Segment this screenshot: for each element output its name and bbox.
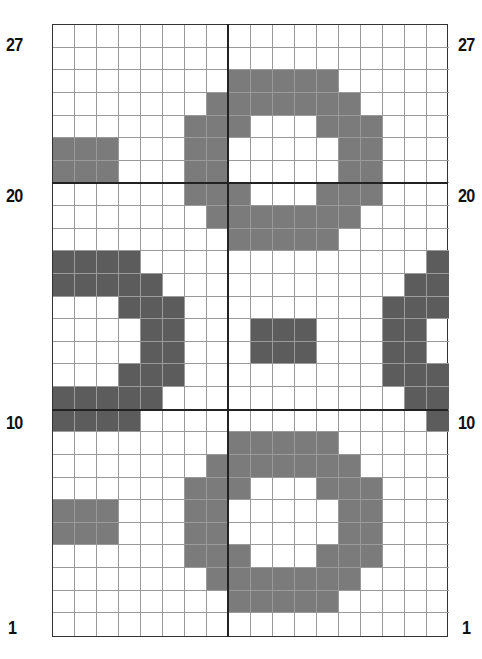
grid-cell [185,25,207,48]
grid-cell [163,138,185,161]
grid-cell [317,297,339,320]
grid-cell [75,568,97,591]
grid-cell [361,613,383,636]
grid-cell [207,455,229,478]
grid-cell [317,591,339,614]
grid-cell [119,183,141,206]
grid-cell [163,342,185,365]
grid-cell [185,500,207,523]
grid-cell [295,251,317,274]
grid-cell [141,161,163,184]
grid-cell [207,161,229,184]
grid-cell [405,183,427,206]
grid-cell [339,523,361,546]
grid-cell [163,251,185,274]
grid-cell [405,432,427,455]
grid-cell [405,591,427,614]
grid-cell [317,70,339,93]
grid-cell [119,229,141,252]
grid-cell [295,161,317,184]
divider-row-10 [52,409,448,411]
grid-cell [185,70,207,93]
grid-cell [427,70,449,93]
grid-cell [119,25,141,48]
grid-cell [273,161,295,184]
grid-cell [405,93,427,116]
grid-cell [405,206,427,229]
grid-cell [141,116,163,139]
grid-cell [141,410,163,433]
grid-cell [405,545,427,568]
grid-cell [383,545,405,568]
grid-cell [229,229,251,252]
grid-cell [163,319,185,342]
grid-cell [273,70,295,93]
grid-cell [251,478,273,501]
grid-cell [119,48,141,71]
grid-cell [427,387,449,410]
grid-cell [339,206,361,229]
grid-cell [185,410,207,433]
grid-cell [383,319,405,342]
grid-cell [405,319,427,342]
grid-cell [163,545,185,568]
grid-cell [295,274,317,297]
grid-cell [141,432,163,455]
grid-cell [339,568,361,591]
grid-cell [75,319,97,342]
grid-cell [75,455,97,478]
grid-cell [383,478,405,501]
grid-cell [229,523,251,546]
grid-cell [163,410,185,433]
grid-cell [119,364,141,387]
grid-cell [229,432,251,455]
grid-cell [207,206,229,229]
grid-cell [97,455,119,478]
grid-cell [251,455,273,478]
grid-cell [185,206,207,229]
grid-cell [339,364,361,387]
grid-cell [207,613,229,636]
grid-cell [361,206,383,229]
grid-cell [361,568,383,591]
grid-cell [295,183,317,206]
grid-cell [163,48,185,71]
grid-cell [317,319,339,342]
grid-cell [141,183,163,206]
row-label-right-20: 20 [458,185,474,207]
grid-cell [405,613,427,636]
grid-cell [405,387,427,410]
grid-cell [207,70,229,93]
grid-cell [119,387,141,410]
grid-cell [295,591,317,614]
grid-cell [207,319,229,342]
grid-cell [163,274,185,297]
grid-cell [295,48,317,71]
grid-cell [53,25,75,48]
grid-cell [339,116,361,139]
grid-cell [427,342,449,365]
grid-cell [405,70,427,93]
grid-cell [207,478,229,501]
grid-cell [75,93,97,116]
grid-cell [317,251,339,274]
grid-cell [383,70,405,93]
row-label-left-1: 1 [8,617,16,639]
grid-cell [317,523,339,546]
grid-cell [383,342,405,365]
grid-cell [163,568,185,591]
grid-cell [273,364,295,387]
grid-cell [427,591,449,614]
grid-cell [207,591,229,614]
grid-cell [427,364,449,387]
grid-cell [53,116,75,139]
grid-cell [141,500,163,523]
grid-cell [97,251,119,274]
grid-cell [317,206,339,229]
grid-cell [163,591,185,614]
grid-cell [361,455,383,478]
grid-cell [119,342,141,365]
grid-cell [295,523,317,546]
grid-cell [229,161,251,184]
grid-cell [317,116,339,139]
